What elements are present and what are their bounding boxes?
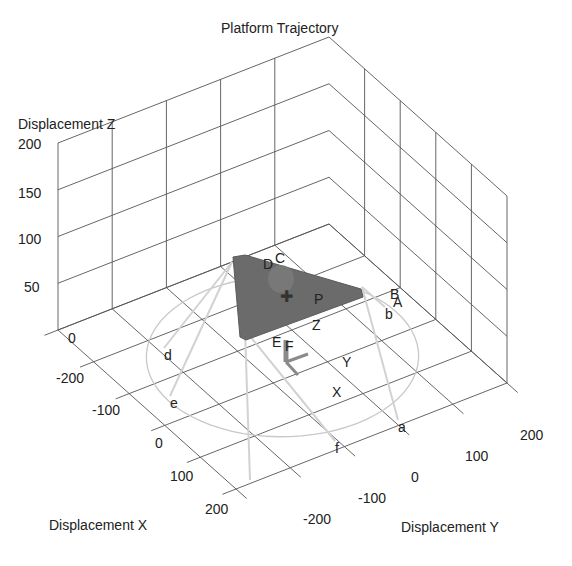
- point-label: Z: [312, 318, 321, 332]
- point-label: X: [332, 385, 341, 399]
- x-axis-label: Displacement X: [49, 518, 147, 532]
- point-label: C: [275, 251, 285, 265]
- z-axis-label: Displacement Z: [18, 117, 115, 131]
- z-tick-label: 100: [18, 232, 41, 246]
- x-tick-label: 100: [170, 469, 193, 483]
- x-tick-label: 200: [205, 502, 228, 516]
- y-tick-label: -100: [358, 491, 386, 505]
- plot-area: ✚: [0, 0, 572, 566]
- y-tick-label: 200: [520, 428, 543, 442]
- y-tick-label: -200: [303, 512, 331, 526]
- y-axis-label: Displacement Y: [401, 520, 499, 534]
- y-tick-label: 100: [465, 449, 488, 463]
- chart-title: Platform Trajectory: [221, 21, 338, 35]
- svg-text:✚: ✚: [280, 288, 293, 305]
- point-label: d: [164, 348, 172, 362]
- x-tick-label: -100: [92, 403, 120, 417]
- point-label: a: [398, 420, 406, 434]
- point-label: D: [263, 257, 273, 271]
- point-label: A: [393, 295, 402, 309]
- point-label: b: [385, 307, 393, 321]
- point-label: f: [335, 441, 339, 455]
- point-label: E: [272, 335, 281, 349]
- y-tick-label: 0: [411, 470, 419, 484]
- x-tick-label: 0: [155, 436, 163, 450]
- point-label: e: [170, 396, 178, 410]
- point-label: P: [314, 292, 323, 306]
- point-label: Y: [342, 355, 351, 369]
- z-tick-label: 0: [68, 331, 76, 345]
- x-tick-label: -200: [56, 371, 84, 385]
- point-label: F: [285, 339, 294, 353]
- z-tick-label: 150: [18, 186, 41, 200]
- z-tick-label: 50: [24, 280, 40, 294]
- z-tick-label: 200: [18, 137, 41, 151]
